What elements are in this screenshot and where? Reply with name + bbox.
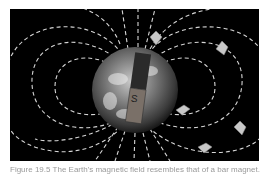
figure-caption: Figure 19.5 The Earth's magnetic field r… xyxy=(10,164,260,175)
magnet-south-label: S xyxy=(130,93,138,105)
magnetic-field-diagram: S xyxy=(10,9,259,161)
field-lines-svg xyxy=(10,9,259,161)
